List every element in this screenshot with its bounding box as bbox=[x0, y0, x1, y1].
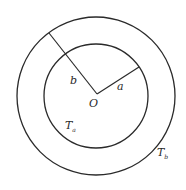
label-t-a-sub: a bbox=[72, 126, 76, 133]
label-t-a: Ta bbox=[65, 119, 76, 133]
inner-circle bbox=[44, 44, 148, 148]
label-center-o: O bbox=[89, 97, 98, 110]
label-t-b-sub: b bbox=[164, 153, 168, 160]
label-t-b: Tb bbox=[157, 146, 168, 160]
concentric-circles-diagram: b a O Ta Tb bbox=[0, 0, 186, 190]
label-a: a bbox=[117, 80, 124, 93]
diagram-canvas: b a O Ta Tb bbox=[0, 0, 186, 190]
outer-circle bbox=[17, 17, 175, 175]
label-b: b bbox=[70, 74, 77, 87]
